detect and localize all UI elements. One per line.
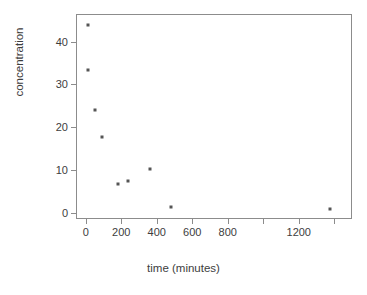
- x-tick-label: 1200: [287, 226, 311, 239]
- x-tick-mark: [86, 219, 87, 224]
- x-tick-mark: [334, 219, 335, 224]
- y-tick-mark: [71, 127, 76, 128]
- y-tick-label: 0: [62, 206, 68, 219]
- y-tick-label: 20: [56, 121, 68, 134]
- x-axis-title: time (minutes): [0, 262, 367, 274]
- x-tick-mark: [228, 219, 229, 224]
- x-tick-mark: [299, 219, 300, 224]
- x-tick-mark: [157, 219, 158, 224]
- scatter-plot-figure: 02004006008001200 010203040 time (minute…: [0, 0, 367, 295]
- y-tick-mark: [71, 213, 76, 214]
- plot-frame: [76, 14, 352, 219]
- y-tick-mark: [71, 170, 76, 171]
- y-axis-title: concentration: [13, 2, 25, 122]
- y-tick-mark: [71, 42, 76, 43]
- x-tick-mark: [192, 219, 193, 224]
- y-tick-label: 30: [56, 78, 68, 91]
- x-tick-label: 0: [83, 226, 89, 239]
- x-tick-label: 400: [148, 226, 166, 239]
- y-tick-label: 40: [56, 35, 68, 48]
- y-tick-mark: [71, 84, 76, 85]
- x-tick-label: 600: [183, 226, 201, 239]
- y-tick-label: 10: [56, 163, 68, 176]
- x-tick-mark: [263, 219, 264, 224]
- x-tick-label: 200: [112, 226, 130, 239]
- x-tick-label: 800: [219, 226, 237, 239]
- x-tick-mark: [121, 219, 122, 224]
